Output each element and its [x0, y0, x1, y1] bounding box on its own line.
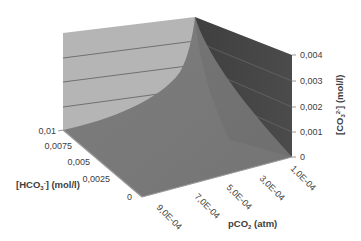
- z-tick-4: 0,004: [300, 50, 323, 60]
- y-axis-title: [HCO3-] (mol/l): [16, 179, 80, 191]
- y-tick-4: 0,01: [38, 126, 56, 136]
- y-tick-3: 0,0075: [44, 141, 72, 151]
- x-tick-3: 3,0E-04: [258, 173, 287, 202]
- z-axis-labels: 0 0,001 0,002 0,003 0,004: [300, 50, 323, 162]
- x-axis-title: pCO2 (atm): [228, 218, 277, 230]
- z-tick-0: 0: [300, 152, 305, 162]
- z-axis-ticks: [292, 55, 296, 157]
- y-axis-ticks: [58, 130, 63, 131]
- x-tick-0: 9,0E-04: [155, 202, 184, 231]
- y-tick-2: 0,005: [67, 157, 90, 167]
- x-tick-2: 5,0E-04: [225, 182, 254, 211]
- x-tick-1: 7,0E-04: [193, 191, 222, 220]
- z-tick-2: 0,002: [300, 102, 323, 112]
- z-tick-3: 0,003: [300, 76, 323, 86]
- z-tick-1: 0,001: [300, 127, 323, 137]
- y-tick-0: 0: [127, 192, 132, 202]
- x-tick-4: 1,0E-04: [289, 163, 318, 192]
- surface-chart: 0 0,001 0,002 0,003 0,004 [CO32-] (mol/l…: [0, 0, 361, 241]
- y-tick-1: 0,0025: [82, 174, 110, 184]
- z-axis-title: [CO32-] (mol/l): [334, 75, 346, 135]
